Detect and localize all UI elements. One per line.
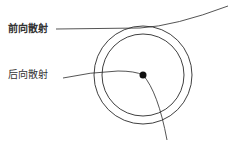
backward-scattering-label: 后向散射 xyxy=(8,69,48,81)
forward-scatter-line xyxy=(56,6,228,29)
forward-scattering-label: 前向散射 xyxy=(8,23,48,35)
transmitted-line xyxy=(143,75,167,140)
particle-dot xyxy=(140,72,147,79)
backward-scatter-line xyxy=(63,71,143,78)
scattering-diagram: 前向散射 后向散射 xyxy=(0,0,236,147)
